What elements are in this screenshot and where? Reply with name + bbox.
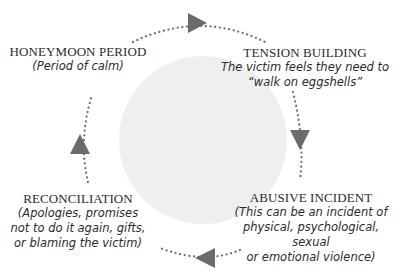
stage-tension-building: TENSION BUILDING The victim feels they n… xyxy=(210,45,400,90)
stage-description: (Period of calm) xyxy=(8,59,148,74)
stage-title: HONEYMOON PERIOD xyxy=(8,44,148,59)
stage-reconciliation: RECONCILIATION (Apologies, promises not … xyxy=(8,191,148,251)
connector-honeymoon-to-tension xyxy=(133,26,265,42)
stage-honeymoon-period: HONEYMOON PERIOD (Period of calm) xyxy=(8,44,148,74)
cycle-of-abuse-diagram: HONEYMOON PERIOD (Period of calm) TENSIO… xyxy=(0,0,407,278)
arrow-up-icon xyxy=(70,134,90,154)
connector-reconciliation-to-honeymoon xyxy=(84,95,92,182)
arrow-right-icon xyxy=(188,13,207,33)
stage-description: (This can be an incident of physical, ps… xyxy=(226,205,396,265)
arrow-down-icon xyxy=(290,130,310,150)
arrow-left-icon xyxy=(195,248,215,268)
stage-description: The victim feels they need to “walk on e… xyxy=(210,60,400,90)
stage-title: ABUSIVE INCIDENT xyxy=(226,190,396,205)
stage-title: TENSION BUILDING xyxy=(210,45,400,60)
stage-abusive-incident: ABUSIVE INCIDENT (This can be an inciden… xyxy=(226,190,396,265)
stage-title: RECONCILIATION xyxy=(8,191,148,206)
stage-description: (Apologies, promises not to do it again,… xyxy=(8,206,148,251)
